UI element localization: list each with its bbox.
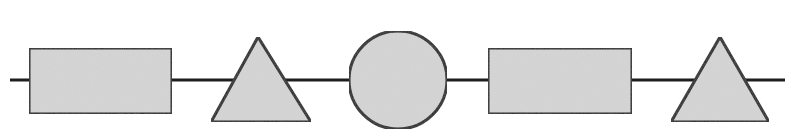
rectangle-shape-2 [488, 48, 632, 114]
shape-sequence-diagram [0, 0, 785, 134]
rectangle-shape-1 [29, 48, 172, 114]
circle-shape-1 [349, 31, 447, 129]
